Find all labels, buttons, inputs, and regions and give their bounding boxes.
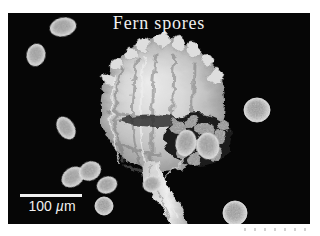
spore-mass	[162, 111, 230, 163]
spore	[95, 197, 113, 215]
spore	[223, 201, 247, 224]
scale-value: 100	[28, 198, 51, 214]
scale-bar: 100µm	[20, 194, 84, 214]
scale-unit-mu: µ	[56, 198, 64, 214]
sem-illustration	[8, 13, 310, 224]
spore	[25, 42, 47, 67]
spore	[244, 98, 270, 122]
scale-bar-line	[20, 194, 82, 197]
cropped-caption-remnant	[244, 228, 312, 231]
figure-title: Fern spores	[8, 13, 310, 33]
scale-bar-label: 100µm	[20, 198, 84, 214]
sem-micrograph: Fern spores 100µm	[8, 13, 310, 224]
scale-unit-m: m	[64, 198, 76, 214]
spore	[53, 114, 79, 143]
spore	[95, 174, 119, 196]
figure-page: Fern spores 100µm	[0, 0, 320, 236]
